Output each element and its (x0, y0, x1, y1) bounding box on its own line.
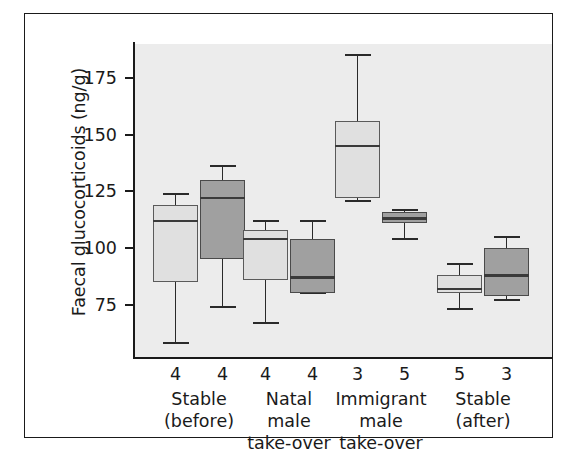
box-iqr-rect (153, 205, 198, 282)
whisker-upper (312, 221, 314, 239)
y-tick-label: 100 (53, 238, 117, 258)
y-tick-mark (125, 134, 134, 136)
y-tick-mark (125, 304, 134, 306)
whisker-cap-lower (345, 200, 371, 202)
whisker-lower (265, 280, 267, 323)
box-median-line (484, 274, 529, 277)
y-tick: 75 (53, 305, 125, 325)
sample-size-label: 3 (352, 364, 363, 384)
y-tick-label: 175 (53, 68, 117, 88)
sample-size-label: 5 (399, 364, 410, 384)
whisker-cap-lower (253, 322, 279, 324)
whisker-cap-upper (392, 209, 418, 211)
y-tick-mark (125, 77, 134, 79)
whisker-cap-upper (163, 193, 189, 195)
whisker-upper (222, 166, 224, 180)
whisker-lower (222, 259, 224, 307)
whisker-cap-lower (163, 342, 189, 344)
y-tick-mark (125, 247, 134, 249)
box-median-line (382, 217, 427, 220)
x-group-label-line: Natal (247, 388, 331, 410)
whisker-upper (175, 194, 177, 205)
y-tick: 100 (53, 248, 125, 268)
box-median-line (200, 197, 245, 200)
whisker-lower (404, 223, 406, 239)
sample-size-label: 3 (501, 364, 512, 384)
whisker-cap-lower (210, 306, 236, 308)
sample-size-label: 4 (307, 364, 318, 384)
y-tick-label: 75 (53, 295, 117, 315)
x-group-label-line: take-over (247, 432, 331, 454)
x-group-label: Natalmaletake-over (247, 388, 331, 454)
box-iqr-rect (335, 121, 380, 198)
whisker-upper (265, 221, 267, 230)
x-group-label: Stable(before) (164, 388, 234, 432)
x-group-label-line: (before) (164, 410, 234, 432)
figure-frame: Faecal glucocorticoids (ng/g) 7510012515… (24, 13, 553, 438)
x-group-label: Stable(after) (455, 388, 510, 432)
whisker-upper (459, 264, 461, 275)
y-tick-mark (125, 190, 134, 192)
y-tick: 150 (53, 135, 125, 155)
x-group-label-line: (after) (455, 410, 510, 432)
x-group-label-line: Stable (455, 388, 510, 410)
whisker-cap-lower (392, 238, 418, 240)
box-iqr-rect (200, 180, 245, 259)
x-group-label-line: male (335, 410, 426, 432)
y-tick-label: 150 (53, 125, 117, 145)
x-group-label-line: take-over (335, 432, 426, 454)
whisker-upper (506, 237, 508, 248)
whisker-cap-lower (447, 308, 473, 310)
sample-size-label: 4 (260, 364, 271, 384)
whisker-cap-upper (210, 165, 236, 167)
whisker-lower (459, 293, 461, 309)
box-median-line (335, 145, 380, 148)
whisker-cap-lower (494, 299, 520, 301)
box-iqr-rect (437, 275, 482, 293)
y-axis-line (133, 42, 135, 359)
figure: Faecal glucocorticoids (ng/g) 7510012515… (0, 0, 573, 464)
box-median-line (243, 238, 288, 241)
y-tick-label: 125 (53, 181, 117, 201)
y-tick: 175 (53, 78, 125, 98)
x-group-label-line: male (247, 410, 331, 432)
sample-size-label: 5 (454, 364, 465, 384)
box-median-line (153, 220, 198, 223)
x-group-label-line: Immigrant (335, 388, 426, 410)
x-group-label: Immigrantmaletake-over (335, 388, 426, 454)
sample-size-label: 4 (170, 364, 181, 384)
x-group-label-line: Stable (164, 388, 234, 410)
sample-size-label: 4 (217, 364, 228, 384)
plot-panel (135, 44, 552, 357)
whisker-cap-upper (447, 263, 473, 265)
whisker-cap-upper (345, 54, 371, 56)
x-axis-line (133, 357, 552, 359)
y-tick: 125 (53, 191, 125, 211)
box-median-line (437, 288, 482, 291)
whisker-cap-upper (494, 236, 520, 238)
whisker-upper (357, 55, 359, 121)
box-median-line (290, 276, 335, 279)
whisker-cap-upper (253, 220, 279, 222)
box-iqr-rect (290, 239, 335, 293)
box-iqr-rect (484, 248, 529, 296)
whisker-cap-upper (300, 220, 326, 222)
whisker-lower (175, 282, 177, 343)
